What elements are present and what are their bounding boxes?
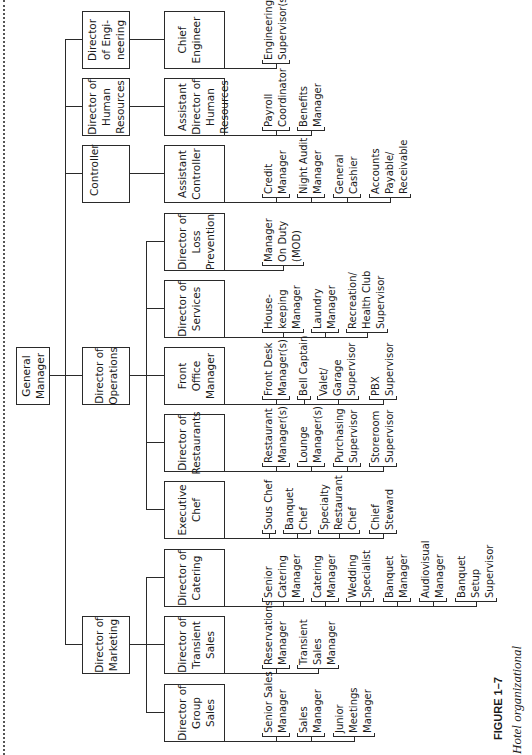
sub-role-label: Manager(s) <box>311 406 325 463</box>
sub-role-label: Banquet <box>455 556 469 598</box>
sub-role-label: Senior <box>262 566 276 598</box>
sub-role-label: Manager <box>276 150 290 194</box>
director-connector <box>65 39 82 40</box>
group-tick <box>339 534 340 539</box>
sub-role-label: Benefits <box>297 86 311 127</box>
position-box: ChiefEngineer <box>164 11 225 69</box>
sub-role-label: Sales <box>311 638 325 665</box>
sub-role-label: Night Audit <box>297 138 311 194</box>
box-label-line: Assistant <box>175 150 189 198</box>
sub-role-label: Banquet <box>383 556 397 598</box>
sub-role-label: Front Desk <box>262 343 276 396</box>
sub-role-label: Wedding <box>346 554 360 598</box>
sub-trunk-line <box>146 242 147 510</box>
row-connector-line <box>225 68 276 69</box>
gm-connector <box>49 375 65 376</box>
sub-role-label: Sous Chef <box>262 480 276 530</box>
subordinate-connector <box>130 644 146 645</box>
position-box: AssistantController <box>164 145 225 203</box>
box-label-line: Manager <box>203 353 217 399</box>
box-label-line: Resources <box>217 80 231 134</box>
subordinate-connector <box>130 39 164 40</box>
group-tick <box>390 198 391 203</box>
sub-role-label: Supervisor <box>374 276 388 329</box>
sub-role-label: Chef <box>297 507 311 530</box>
box-label-line: Director of <box>175 617 189 673</box>
box-label-line: Director of <box>175 415 189 471</box>
sub-role-label: Restaurant <box>332 475 346 530</box>
sub-role-label: Supervisor <box>383 343 397 396</box>
sub-role-label: Recreation/ <box>346 272 360 329</box>
general-manager-box: GeneralManager <box>16 347 50 405</box>
box-label-line: Operations <box>106 347 120 405</box>
group-tick <box>476 602 477 607</box>
box-label-line: Marketing <box>106 619 120 671</box>
sub-role-label: Manager <box>262 218 276 262</box>
figure-title: Hotel organizational <box>509 646 525 754</box>
director-box-engineering: Directorof Engi-neering <box>82 11 130 69</box>
box-label-line: Assistant <box>175 83 189 131</box>
sub-role-label: Manager <box>290 285 304 329</box>
sub-role-label: Engineering <box>262 0 276 60</box>
sub-role-label: Manager <box>311 83 325 127</box>
sub-role-label: Senior Sales <box>262 671 276 733</box>
sub-role-label: House- <box>262 294 276 329</box>
box-label-line: Catering <box>189 556 203 601</box>
group-tick <box>276 131 277 136</box>
figure-number: FIGURE 1–7 <box>492 677 504 740</box>
box-label-line: Human <box>99 88 113 126</box>
sub-role-label: Meetings <box>347 687 361 733</box>
box-label-line: Sales <box>203 699 217 727</box>
box-label-line: Services <box>189 287 203 331</box>
group-tick <box>383 467 384 472</box>
subordinate-connector <box>146 442 164 443</box>
group-tick <box>433 602 434 607</box>
box-label-line: Director of <box>92 348 106 404</box>
position-box: Director ofTransientSales <box>164 616 225 674</box>
sub-role-label: Specialist <box>360 550 374 598</box>
position-box: FrontOfficeManager <box>164 347 225 405</box>
director-connector <box>65 375 82 376</box>
box-label-line: Director <box>85 19 99 61</box>
sub-role-label: Manager <box>433 554 447 598</box>
sub-role-label: Catering <box>311 555 325 598</box>
group-tick <box>311 467 312 472</box>
position-box: Director ofRestaurants <box>164 414 225 472</box>
box-label-line: Director of <box>175 550 189 606</box>
sub-role-label: Lounge <box>297 426 311 463</box>
group-tick <box>304 400 305 405</box>
group-tick <box>276 669 277 674</box>
sub-role-label: Cashier <box>347 156 361 194</box>
sub-role-label: Audiovisual <box>419 540 433 598</box>
sub-role-label: Manager <box>311 689 325 733</box>
group-tick <box>311 737 312 742</box>
group-tick <box>269 534 270 539</box>
sub-role-label: Valet/ <box>317 368 331 396</box>
sub-role-label: Storeroom <box>369 411 383 463</box>
sub-role-label: On Duty <box>276 221 290 262</box>
position-box: Director ofGroupSales <box>164 684 225 742</box>
sub-role-label: Manager <box>311 150 325 194</box>
subordinate-connector <box>146 308 164 309</box>
sub-role-label: Manager <box>276 689 290 733</box>
row-connector-line <box>225 741 354 742</box>
box-label-line: Engineer <box>189 17 203 64</box>
subordinate-connector <box>146 375 164 376</box>
subordinate-connector <box>130 173 164 174</box>
group-tick <box>311 131 312 136</box>
sub-role-label: General <box>333 155 347 194</box>
sub-role-label: Setup <box>469 569 483 598</box>
group-tick <box>283 602 284 607</box>
subordinate-connector <box>146 712 164 713</box>
sub-role-label: Manager(s) <box>276 406 290 463</box>
sub-role-label: Payroll <box>262 94 276 127</box>
sub-role-label: Supervisor(s) <box>276 0 290 60</box>
box-label-line: Office <box>189 361 203 392</box>
sub-role-label: Supervisor <box>347 410 361 463</box>
sub-role-label: Supervisor <box>345 343 359 396</box>
subordinate-connector <box>146 577 164 578</box>
sub-role-label: Catering <box>276 555 290 598</box>
box-label-line: General <box>19 355 33 396</box>
box-label-line: Prevention <box>203 214 217 270</box>
sub-role-label: Steward <box>383 489 397 530</box>
